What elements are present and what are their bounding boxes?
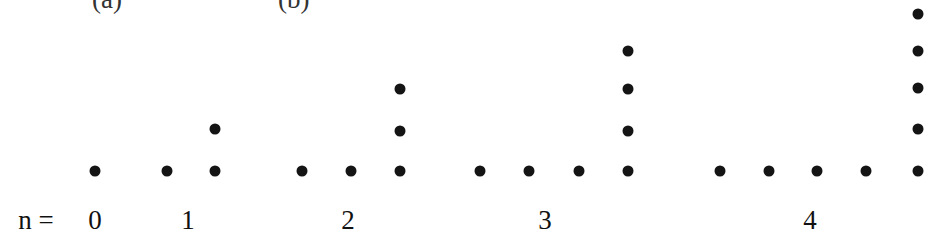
- dot: [395, 126, 406, 137]
- dot: [913, 166, 924, 177]
- dot: [861, 166, 872, 177]
- dot: [812, 166, 823, 177]
- dot: [475, 166, 486, 177]
- dot: [913, 124, 924, 135]
- dot: [623, 84, 634, 95]
- dot: [395, 166, 406, 177]
- dot: [297, 166, 308, 177]
- dot: [346, 166, 357, 177]
- clipped-caption-a: (a): [92, 0, 122, 13]
- dot: [913, 9, 924, 20]
- n-prefix-label: n =: [18, 207, 53, 234]
- dot: [764, 166, 775, 177]
- dot: [574, 166, 585, 177]
- dot: [623, 46, 634, 57]
- n-value-label: 1: [181, 207, 195, 234]
- dot: [913, 83, 924, 94]
- dot: [210, 166, 221, 177]
- dot: [395, 84, 406, 95]
- n-value-label: 3: [538, 207, 552, 234]
- clipped-caption-b: (b): [278, 0, 309, 13]
- n-value-label: 0: [88, 207, 102, 234]
- dot: [210, 124, 221, 135]
- dot: [715, 166, 726, 177]
- n-value-label: 4: [803, 207, 817, 234]
- n-value-label: 2: [341, 207, 355, 234]
- dot: [623, 166, 634, 177]
- dot: [90, 166, 101, 177]
- dot: [913, 46, 924, 57]
- dot: [524, 166, 535, 177]
- dot: [162, 166, 173, 177]
- dot: [623, 126, 634, 137]
